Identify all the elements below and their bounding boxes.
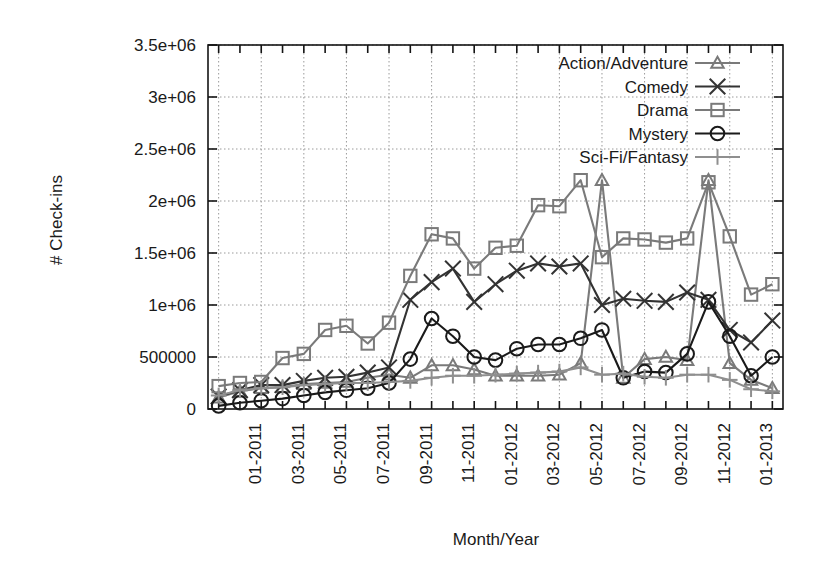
plus-marker [679,367,695,383]
chart-legend: Action/AdventureComedyDramaMysterySci-Fi… [559,54,740,167]
checkins-line-chart: 05000001e+061.5e+062e+062.5e+063e+063.5e… [0,0,814,579]
series-layer [211,174,780,413]
x-tick-label: 07-2012 [630,423,649,485]
plus-marker [615,366,631,382]
legend-item-mystery[interactable]: Mystery [629,125,741,144]
plus-marker [701,367,717,383]
x-tick-label: 01-2011 [246,423,265,484]
y-tick-label: 2e+06 [148,192,196,211]
x-tick-label: 11-2011 [459,423,478,483]
legend-label: Action/Adventure [559,54,688,73]
x-axis-ticks: 01-201103-201105-201107-201109-201111-20… [219,45,777,485]
y-tick-label: 2.5e+06 [134,140,196,159]
cross-marker [403,292,419,308]
y-axis-title: # Check-ins [47,175,66,265]
legend-label: Mystery [629,125,689,144]
x-axis-title: Month/Year [453,530,540,549]
legend-item-comedy[interactable]: Comedy [625,78,740,97]
y-tick-label: 3.5e+06 [134,36,196,55]
x-tick-label: 01-2012 [502,423,521,485]
chart-container: 05000001e+061.5e+062e+062.5e+063e+063.5e… [0,0,814,579]
plus-marker [722,372,738,388]
plus-marker [710,149,726,165]
y-tick-label: 500000 [139,348,196,367]
x-tick-label: 05-2011 [331,423,350,484]
x-tick-label: 09-2012 [672,423,691,485]
legend-item-sci-fi-fantasy[interactable]: Sci-Fi/Fantasy [579,148,740,167]
x-tick-label: 05-2012 [587,423,606,485]
x-tick-label: 01-2013 [757,423,776,485]
cross-marker [424,274,440,290]
x-tick-label: 07-2011 [374,423,393,484]
cross-marker [445,261,461,277]
plus-marker [424,370,440,386]
x-tick-label: 11-2012 [715,423,734,484]
plus-marker [594,367,610,383]
y-tick-label: 0 [187,400,196,419]
x-tick-label: 03-2011 [289,423,308,484]
cross-marker [488,276,504,292]
legend-item-action-adventure[interactable]: Action/Adventure [559,54,740,73]
legend-label: Comedy [625,78,689,97]
y-tick-label: 3e+06 [148,88,196,107]
grid-layer [208,45,783,409]
legend-label: Drama [637,101,689,120]
y-tick-label: 1e+06 [148,296,196,315]
plot-frame [208,45,783,409]
x-tick-label: 09-2011 [417,423,436,484]
plus-marker [573,360,589,376]
legend-item-drama[interactable]: Drama [637,101,740,120]
cross-marker [743,335,759,351]
y-tick-label: 1.5e+06 [134,244,196,263]
cross-marker [466,294,482,310]
x-tick-label: 03-2012 [544,423,563,485]
legend-label: Sci-Fi/Fantasy [579,148,688,167]
